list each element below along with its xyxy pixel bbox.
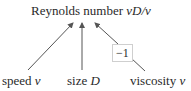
arrow-viscosity (131, 58, 145, 71)
label-viscosity: viscosity ν (130, 74, 185, 87)
label-size: size D (67, 74, 100, 87)
arrow-speed (28, 23, 73, 70)
arrow-viscosity-upper (95, 23, 118, 44)
exponent-box: −1 (112, 44, 133, 62)
label-speed: speed v (2, 74, 41, 87)
